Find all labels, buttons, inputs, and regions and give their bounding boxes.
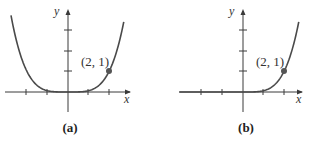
- y-axis-arrow-icon: [66, 9, 71, 15]
- graph-panel-b: (2, 1) x y (b): [155, 0, 310, 146]
- x-axis-label: x: [123, 92, 130, 106]
- graph-panel-a: (2, 1) x y (a): [0, 0, 155, 146]
- y-axis-label: y: [53, 4, 60, 18]
- caption-b: (b): [226, 120, 266, 136]
- caption-a: (a): [50, 120, 90, 136]
- y-axis-label: y: [228, 4, 235, 18]
- point-label: (2, 1): [256, 54, 284, 69]
- point-label: (2, 1): [81, 54, 109, 69]
- x-axis-label: x: [295, 92, 302, 106]
- y-axis-arrow-icon: [241, 9, 246, 15]
